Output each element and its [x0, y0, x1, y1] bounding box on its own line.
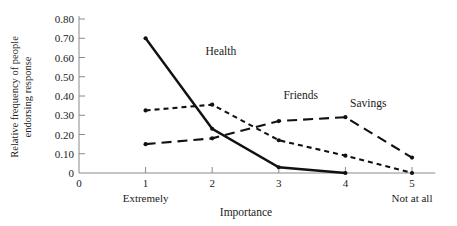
- y-tick-label: 0.20: [55, 129, 75, 141]
- x-tick-label: 1: [143, 177, 149, 189]
- series-annotations: HealthFriendsSavings: [206, 45, 387, 110]
- x-axis-endpoint-labels: ExtremelyNot at all: [123, 192, 433, 204]
- x-tick-label: 0: [76, 177, 82, 189]
- data-point-friends: [343, 154, 347, 158]
- y-tick-label: 0.70: [55, 32, 75, 44]
- series-line-savings: [146, 117, 412, 157]
- y-axis-tick-labels: 00.100.200.300.400.500.600.700.80: [55, 13, 75, 179]
- y-tick-label: 0: [69, 167, 75, 179]
- series-line-health: [146, 38, 346, 173]
- data-point-friends: [277, 138, 281, 142]
- x-tick-label: 5: [409, 177, 415, 189]
- y-tick-label: 0.50: [55, 71, 75, 83]
- x-axis-title: Importance: [220, 206, 272, 219]
- data-point-savings: [410, 156, 414, 160]
- data-point-health: [144, 36, 148, 40]
- series-label-savings: Savings: [350, 97, 387, 110]
- x-tick-label: 3: [276, 177, 282, 189]
- data-point-health: [210, 127, 214, 131]
- y-tick-label: 0.60: [55, 52, 75, 64]
- data-point-health: [343, 171, 347, 175]
- y-axis-title-line1: Relative frequency of people: [9, 36, 20, 158]
- x-axis-tick-labels: 012345: [76, 177, 415, 189]
- data-point-savings: [144, 142, 148, 146]
- data-point-friends: [210, 103, 214, 107]
- y-tick-label: 0.40: [55, 90, 75, 102]
- axes: [79, 16, 435, 173]
- series-label-health: Health: [206, 45, 237, 57]
- y-tick-label: 0.80: [55, 13, 75, 25]
- x-tick-label: 4: [343, 177, 349, 189]
- data-point-health: [277, 165, 281, 169]
- y-axis-title-line2: endorsing response: [22, 56, 33, 137]
- data-point-friends: [410, 171, 414, 175]
- x-tick-label: 2: [209, 177, 215, 189]
- y-tick-label: 0.30: [55, 109, 75, 121]
- series-label-friends: Friends: [283, 89, 318, 101]
- y-tick-label: 0.10: [55, 148, 75, 160]
- line-chart: 00.100.200.300.400.500.600.700.80 012345…: [0, 0, 457, 226]
- x-axis-label-extremely: Extremely: [123, 192, 169, 204]
- x-axis-label-not-at-all: Not at all: [392, 192, 433, 204]
- data-point-savings: [277, 119, 281, 123]
- data-point-savings: [343, 115, 347, 119]
- data-point-savings: [210, 136, 214, 140]
- data-point-friends: [144, 108, 148, 112]
- chart-container: 00.100.200.300.400.500.600.700.80 012345…: [0, 0, 457, 226]
